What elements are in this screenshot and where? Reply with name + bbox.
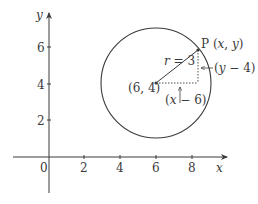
x-axis-label: x xyxy=(216,161,223,175)
x-tick-label-6: 6 xyxy=(152,161,160,175)
x-tick-label-8: 8 xyxy=(188,161,196,175)
circle-diagram: 0 2 4 6 8 x 6 4 2 y P (x, y) r = 3 (6, 4… xyxy=(0,0,258,204)
y-tick-label-4: 4 xyxy=(37,78,45,92)
horizontal-leg-label: (x − 6) xyxy=(165,93,206,107)
x-tick-label-2: 2 xyxy=(80,161,88,175)
origin-label: 0 xyxy=(40,161,48,175)
y-axis-label: y xyxy=(35,8,43,22)
y-tick-label-2: 2 xyxy=(37,114,45,128)
radius-label: r = 3 xyxy=(164,54,195,68)
y-tick-label-6: 6 xyxy=(37,41,45,55)
center-label: (6, 4) xyxy=(128,81,160,95)
x-tick-label-4: 4 xyxy=(116,161,124,175)
vertical-leg-label: (y − 4) xyxy=(214,61,255,75)
point-p-label: P (x, y) xyxy=(201,37,243,51)
